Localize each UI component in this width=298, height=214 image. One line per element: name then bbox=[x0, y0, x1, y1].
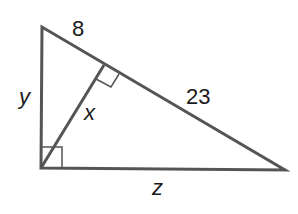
label-bottom-leg: z bbox=[151, 175, 163, 200]
label-altitude: x bbox=[83, 100, 96, 125]
outer-triangle bbox=[41, 27, 285, 170]
triangle-diagram: 8 23 y x z bbox=[0, 0, 298, 214]
label-bottom-segment: 23 bbox=[186, 84, 210, 109]
label-left-leg: y bbox=[17, 84, 32, 109]
label-top-segment: 8 bbox=[72, 16, 84, 41]
right-angle-marker-hypotenuse bbox=[96, 74, 119, 87]
